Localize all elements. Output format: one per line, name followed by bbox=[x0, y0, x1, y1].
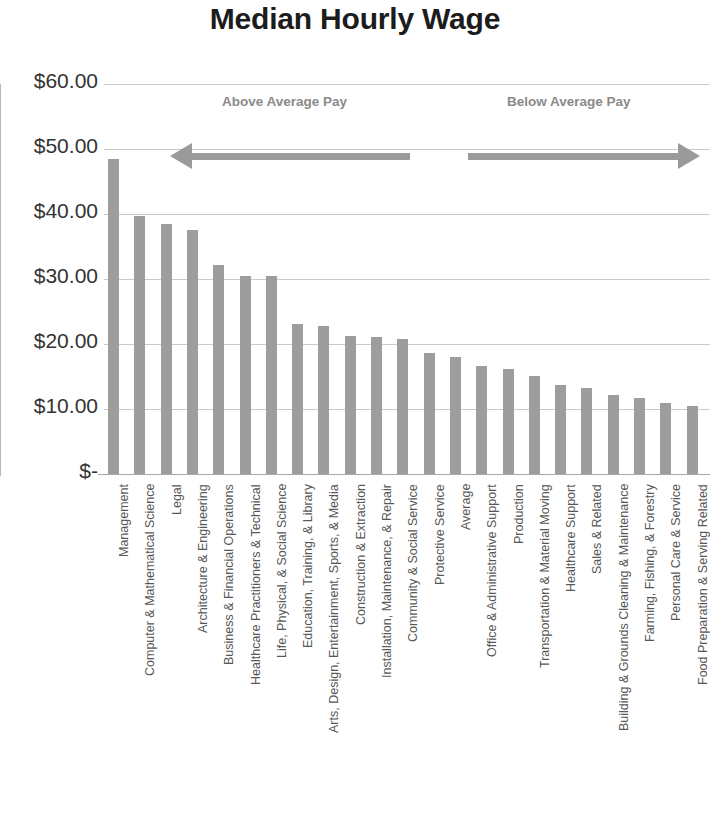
x-axis-category-label: Installation, Maintenance, & Repair bbox=[381, 484, 394, 678]
x-axis-category-label: Education, Training, & Library bbox=[302, 484, 315, 648]
x-axis-category-label: Business & Financial Operations bbox=[223, 484, 236, 665]
x-axis-category-label: Transportation & Material Moving bbox=[539, 484, 552, 668]
x-axis-category-label: Arts, Design, Entertainment, Sports, & M… bbox=[328, 484, 341, 733]
x-axis-category-label: Farming, Fishing, & Forestry bbox=[644, 484, 657, 642]
x-axis-category-label: Healthcare Support bbox=[565, 484, 578, 592]
x-axis-category-label: Computer & Mathematical Science bbox=[144, 484, 157, 676]
x-axis-category-label: Sales & Related bbox=[591, 484, 604, 574]
x-axis-category-label: Average bbox=[460, 484, 473, 530]
x-axis-category-label: Legal bbox=[171, 484, 184, 515]
x-axis-category-label: Management bbox=[118, 484, 131, 557]
x-axis-category-label: Architecture & Engineering bbox=[197, 484, 210, 633]
x-axis-category-label: Personal Care & Service bbox=[670, 484, 683, 621]
x-axis-category-label: Protective Service bbox=[434, 484, 447, 585]
x-axis-category-label: Building & Grounds Cleaning & Maintenanc… bbox=[618, 484, 631, 731]
x-axis-category-labels: ManagementComputer & Mathematical Scienc… bbox=[0, 0, 710, 815]
x-axis-category-label: Construction & Extraction bbox=[355, 484, 368, 625]
x-axis-category-label: Healthcare Practitioners & Technical bbox=[250, 484, 263, 685]
x-axis-category-label: Production bbox=[513, 484, 526, 544]
x-axis-category-label: Office & Administrative Support bbox=[486, 484, 499, 657]
x-axis-category-label: Life, Physical, & Social Science bbox=[276, 484, 289, 658]
x-axis-category-label: Food Preparation & Serving Related bbox=[697, 484, 710, 685]
x-axis-category-label: Community & Social Service bbox=[407, 484, 420, 642]
